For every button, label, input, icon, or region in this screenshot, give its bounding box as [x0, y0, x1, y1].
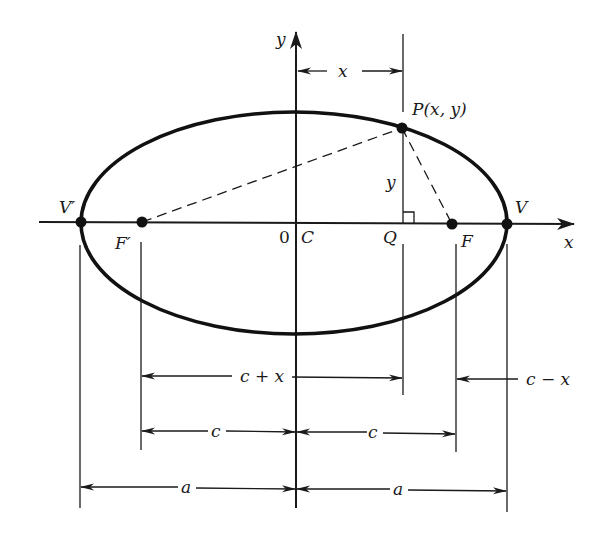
- dim-c-plus-x-label: c + x: [240, 366, 285, 386]
- vertex-left-dot: [76, 217, 87, 228]
- dim-c-right: c: [297, 422, 455, 442]
- point-p-label: P(x, y): [411, 99, 467, 119]
- right-angle-marker: [403, 212, 414, 223]
- dim-c-left: c: [142, 421, 295, 441]
- dim-c-plus-x: c + x: [142, 366, 402, 386]
- focus-left-dot: [137, 217, 148, 228]
- foot-q-label: Q: [383, 227, 397, 247]
- vertex-left-label: V′: [59, 197, 75, 217]
- focal-radius-right: [402, 128, 452, 224]
- x-axis-label: x: [564, 232, 574, 252]
- dim-c-left-label: c: [211, 421, 221, 441]
- dim-a-right: a: [297, 479, 506, 499]
- dim-c-right-label: c: [368, 422, 378, 442]
- dim-a-right-label: a: [393, 479, 403, 499]
- dim-c-minus-x: c − x: [457, 369, 571, 389]
- focal-radius-left: [142, 128, 402, 222]
- x-axis: [39, 222, 574, 224]
- dim-c-minus-x-label: c − x: [526, 369, 571, 389]
- dim-top-x-label: x: [338, 61, 348, 81]
- center-label: C: [301, 227, 314, 247]
- y-axis-label: y: [275, 29, 286, 49]
- p-height-label: y: [385, 172, 396, 192]
- focus-right-label: F: [460, 231, 474, 251]
- vertex-right-label: V: [515, 197, 529, 217]
- axes: [39, 32, 574, 508]
- dim-a-left-label: a: [181, 477, 191, 497]
- point-p-dot: [397, 123, 408, 134]
- vertex-right-dot: [502, 219, 513, 230]
- origin-label: 0: [279, 227, 290, 247]
- focus-right-dot: [447, 219, 458, 230]
- dim-top-x: x: [298, 61, 402, 81]
- dim-a-left: a: [81, 477, 295, 497]
- focus-left-label: F′: [114, 233, 131, 253]
- ellipse-diagram: x c + x c − x c c a a y x P(x, y) y 0 C …: [0, 0, 604, 543]
